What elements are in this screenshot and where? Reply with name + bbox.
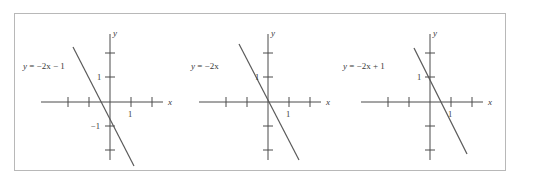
y-axis-label-3: y <box>432 28 437 38</box>
graph-panel-1: x y 1 1 −1 y = −2x − 1 <box>15 14 179 170</box>
y-tick-label-one-1: 1 <box>97 72 101 82</box>
equation-label-rest-3: = −2x + 1 <box>347 61 385 71</box>
y-axis-label-1: y <box>112 28 117 38</box>
y-tick-label-one-3: 1 <box>417 72 421 82</box>
equation-label-1: y = −2x − 1 <box>22 61 65 71</box>
x-tick-label-one-1: 1 <box>128 109 132 119</box>
figure-border: x y 1 1 −1 y = −2x − 1 x <box>14 13 506 171</box>
y-axis-label-2: y <box>270 28 275 38</box>
plotted-line-1 <box>73 47 134 166</box>
x-axis-label-2: x <box>325 97 330 107</box>
graph-panel-3: x y 1 1 y = −2x + 1 <box>335 14 499 170</box>
equation-label-rest-1: = −2x − 1 <box>27 61 65 71</box>
y-tick-label-neg-one-1: −1 <box>91 121 100 131</box>
x-axis-label-3: x <box>487 97 492 107</box>
x-tick-label-one-3: 1 <box>448 109 452 119</box>
y-tick-label-one-2: 1 <box>255 72 259 82</box>
graph-panel-2: x y 1 1 y = −2x <box>173 14 337 170</box>
plotted-line-3 <box>414 48 467 154</box>
equation-label-3: y = −2x + 1 <box>342 61 385 71</box>
x-axis-label-1: x <box>167 97 172 107</box>
x-tick-label-one-2: 1 <box>286 109 290 119</box>
equation-label-2: y = −2x <box>190 61 219 71</box>
equation-label-rest-2: = −2x <box>195 61 219 71</box>
